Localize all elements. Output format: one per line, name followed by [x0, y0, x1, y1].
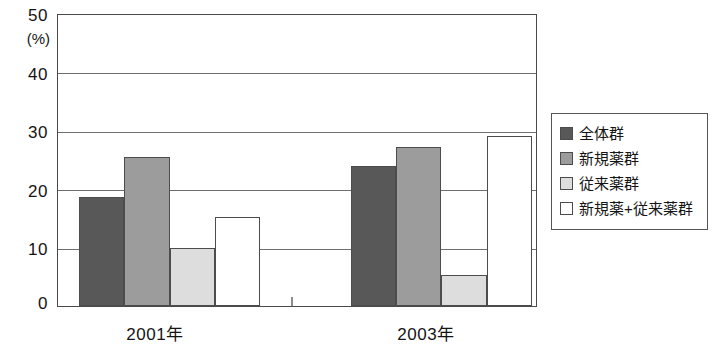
y-axis: 50 (%) 40 30 20 10 0: [0, 0, 52, 363]
legend-item-combined[interactable]: 新規薬+従来薬群: [560, 196, 699, 221]
legend-swatch-combined-icon: [560, 202, 573, 215]
legend-label-combined: 新規薬+従来薬群: [579, 201, 693, 216]
gridline-30: [58, 132, 536, 133]
bar-chart-figure: 50 (%) 40 30 20 10 0 2001年 2003年 全体群: [0, 0, 714, 363]
legend-swatch-new-icon: [560, 152, 573, 165]
bar-2001-new: [124, 157, 170, 306]
legend-label-conventional: 従来薬群: [579, 176, 639, 191]
plot-area: [57, 14, 537, 307]
bar-2003-new: [396, 147, 441, 307]
legend-label-new: 新規薬群: [579, 151, 639, 166]
bar-2001-overall: [79, 197, 124, 306]
legend-item-conventional[interactable]: 従来薬群: [560, 171, 699, 196]
legend-item-new[interactable]: 新規薬群: [560, 146, 699, 171]
legend: 全体群 新規薬群 従来薬群 新規薬+従来薬群: [551, 113, 708, 230]
legend-label-overall: 全体群: [579, 126, 624, 141]
y-tick-label-20: 20: [0, 182, 48, 202]
legend-item-overall[interactable]: 全体群: [560, 121, 699, 146]
x-axis-label-2001: 2001年: [110, 320, 200, 345]
bar-2003-combined: [487, 136, 532, 306]
y-tick-label-40: 40: [0, 65, 48, 85]
bar-2001-combined: [215, 217, 260, 306]
bar-2003-conventional: [441, 275, 487, 306]
x-axis-label-2003: 2003年: [381, 320, 471, 345]
bar-2001-conventional: [170, 248, 215, 306]
group-separator-tick: [291, 297, 293, 306]
bar-2003-overall: [351, 166, 396, 306]
y-axis-unit-label: (%): [0, 30, 50, 47]
y-tick-label-0: 0: [0, 294, 48, 314]
legend-swatch-overall-icon: [560, 127, 573, 140]
y-tick-label-30: 30: [0, 123, 48, 143]
legend-swatch-conventional-icon: [560, 177, 573, 190]
y-tick-label-10: 10: [0, 240, 48, 260]
y-tick-label-50: 50: [0, 6, 48, 26]
gridline-40: [58, 73, 536, 74]
